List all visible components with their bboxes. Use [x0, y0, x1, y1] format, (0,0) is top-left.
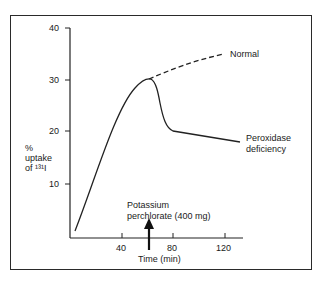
legend-normal: Normal — [230, 49, 259, 59]
y-tick-label: 30 — [49, 75, 59, 85]
y-tick-label: 40 — [49, 23, 59, 33]
x-tick-label: 80 — [167, 243, 177, 253]
legend-deficiency-line1: Peroxidase — [246, 133, 291, 143]
y-tick-label: 10 — [49, 179, 59, 189]
annotation-line2: perchlorate (400 mg) — [127, 211, 211, 221]
arrow-up-icon — [144, 218, 154, 250]
x-tick-label: 120 — [216, 243, 231, 253]
x-axis-title: Time (min) — [138, 254, 181, 264]
series-normal-line — [149, 54, 224, 79]
legend-deficiency-line2: deficiency — [246, 144, 286, 154]
x-ticks — [122, 233, 225, 238]
y-ticks — [65, 28, 70, 184]
annotation-line1: Potassium — [127, 200, 169, 210]
y-axis-title-line3: of ¹³¹I — [25, 163, 47, 173]
y-tick-label: 20 — [49, 126, 59, 136]
x-tick-label: 40 — [116, 243, 126, 253]
y-axis-title-line1: % — [25, 143, 33, 153]
y-axis-title-line2: uptake — [25, 153, 52, 163]
